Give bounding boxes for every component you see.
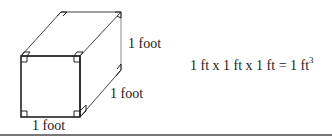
depth-label: 1 foot xyxy=(110,86,143,102)
bottom-divider xyxy=(0,134,332,136)
cube-front-face xyxy=(21,56,80,117)
cube-top-face xyxy=(21,12,121,56)
cube-diagram xyxy=(0,0,180,137)
width-label: 1 foot xyxy=(32,118,65,134)
volume-formula: 1 ft x 1 ft x 1 ft = 1 ft3 xyxy=(190,58,314,74)
formula-exponent: 3 xyxy=(309,55,314,65)
height-label: 1 foot xyxy=(128,36,161,52)
formula-text: 1 ft x 1 ft x 1 ft = 1 ft xyxy=(190,58,309,73)
